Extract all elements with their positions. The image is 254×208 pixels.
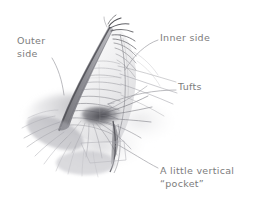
annotation-tufts: Tufts <box>178 81 202 93</box>
annotation-inner-side: Inner side <box>160 32 210 44</box>
annotation-outer-side: Outer side <box>17 34 45 60</box>
annotation-vertical-pocket: A little vertical “pocket” <box>160 164 234 190</box>
sketch-diagram-page: Outer side Inner side Tufts A little ver… <box>0 0 254 208</box>
outer-side-leader <box>52 58 64 95</box>
